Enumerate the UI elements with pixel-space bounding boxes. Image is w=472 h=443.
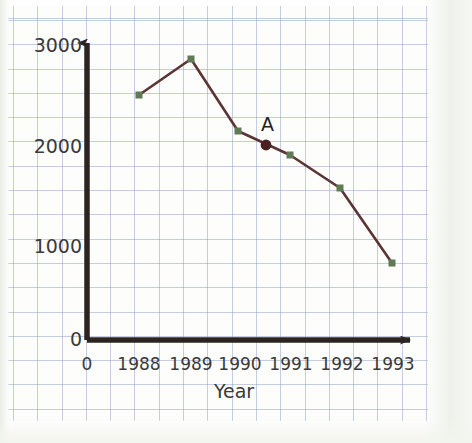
- x-tick-label-1993: 1993: [367, 354, 419, 374]
- annotation-point-a-marker: [261, 140, 272, 151]
- y-tick-label-2000: 2000: [18, 135, 82, 157]
- annotation-label-a: A: [261, 113, 274, 135]
- data-point-1991: [287, 152, 294, 159]
- data-line-series-1: [139, 59, 392, 263]
- y-tick-label-1000: 1000: [18, 235, 82, 257]
- x-tick-label-1988: 1988: [113, 354, 165, 374]
- x-tick-label-1991: 1991: [265, 354, 317, 374]
- data-point-1988: [136, 92, 143, 99]
- data-point-1992: [337, 185, 344, 192]
- data-point-1993: [389, 260, 396, 267]
- data-point-1989: [188, 56, 195, 63]
- data-point-1990: [235, 128, 242, 135]
- x-tick-label-1992: 1992: [316, 354, 368, 374]
- chart-page: 3000 2000 1000 0 0 1988 1989 1990 1991 1…: [0, 0, 472, 443]
- y-tick-label-0: 0: [18, 328, 82, 350]
- x-axis-title: Year: [194, 380, 274, 402]
- x-tick-label-1989: 1989: [165, 354, 217, 374]
- y-tick-label-3000: 3000: [18, 34, 82, 56]
- x-tick-label-1990: 1990: [214, 354, 266, 374]
- x-tick-label-origin: 0: [61, 354, 113, 374]
- line-chart-plot: [0, 0, 472, 443]
